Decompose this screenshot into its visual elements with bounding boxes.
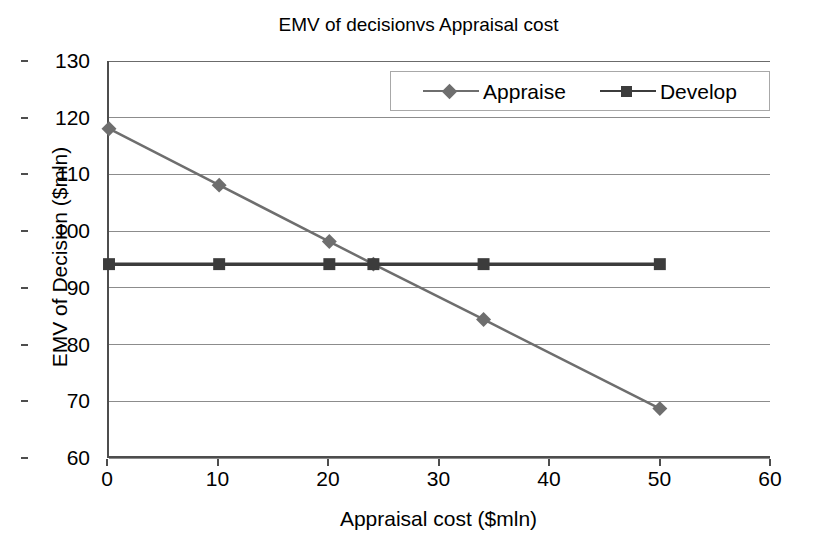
y-axis-tick-label: 90 [32,277,90,298]
y-axis-tick-label: 130 [32,50,90,71]
chart-legend: Appraise Develop [390,71,770,111]
data-point-appraise [102,121,117,136]
y-axis-tick-mark [21,287,28,289]
x-axis-tick-label: 10 [188,468,248,489]
data-point-develop [367,258,379,270]
x-axis-tick-mark [659,459,661,466]
x-axis-tick-label: 20 [298,468,358,489]
legend-marker-square-icon [600,82,656,100]
data-point-develop [478,258,490,270]
y-axis-tick-label: 120 [32,107,90,128]
legend-entry-appraise[interactable]: Appraise [423,81,566,102]
chart-container: EMV of decisionvs Appraisal cost EMV of … [0,0,837,555]
y-axis-tick-mark [21,173,28,175]
y-axis-tick-mark [21,344,28,346]
x-axis-tick-mark [327,459,329,466]
x-axis-tick-mark [548,459,550,466]
x-axis-tick-label: 50 [630,468,690,489]
x-axis-tick-label: 0 [77,468,137,489]
y-axis-tick-mark [21,60,28,62]
data-point-develop [103,258,115,270]
plot-area [107,61,770,458]
legend-marker-diamond-icon [423,82,479,100]
y-axis-tick-label: 110 [32,163,90,184]
x-axis-tick-label: 30 [409,468,469,489]
chart-title: EMV of decisionvs Appraisal cost [0,14,837,36]
x-axis-tick-mark [217,459,219,466]
y-axis-tick-label: 80 [32,334,90,355]
y-axis-tick-mark [21,457,28,459]
legend-label-appraise: Appraise [483,81,566,102]
data-point-develop [654,258,666,270]
series-layer [109,61,770,456]
y-axis-tick-mark [21,400,28,402]
x-axis-tick-marks [107,459,770,467]
y-axis-tick-labels: 60708090100110120130 [28,61,90,458]
data-point-appraise [212,178,227,193]
x-axis-tick-mark [106,459,108,466]
x-axis-tick-mark [769,459,771,466]
data-point-appraise [476,312,491,327]
y-axis-tick-mark [21,117,28,119]
legend-entry-develop[interactable]: Develop [600,81,737,102]
x-axis-tick-mark [438,459,440,466]
data-point-appraise [322,234,337,249]
data-point-develop [213,258,225,270]
y-axis-tick-label: 70 [32,390,90,411]
legend-label-develop: Develop [660,81,737,102]
x-axis-title: Appraisal cost ($mln) [107,507,770,531]
x-axis-tick-label: 40 [519,468,579,489]
x-axis-tick-label: 60 [740,468,800,489]
data-point-develop [323,258,335,270]
data-point-appraise [652,401,667,416]
x-axis-tick-labels: 0102030405060 [107,468,770,496]
y-axis-tick-label: 100 [32,220,90,241]
y-axis-tick-label: 60 [32,447,90,468]
series-line-appraise [109,129,660,409]
y-axis-tick-mark [21,230,28,232]
